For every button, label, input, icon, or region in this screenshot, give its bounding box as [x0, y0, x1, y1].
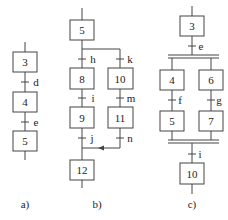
transition-label: m — [127, 92, 136, 104]
transition-label: h — [90, 53, 96, 65]
step-label: 3 — [22, 56, 28, 68]
step-label: 7 — [208, 115, 214, 127]
transition-label: n — [127, 132, 133, 144]
transition-label: i — [91, 92, 94, 104]
step-label: 3 — [189, 20, 195, 32]
transition-label: i — [198, 148, 201, 160]
step-label: 5 — [22, 135, 28, 147]
diagram-c — [160, 6, 223, 194]
step-label: 4 — [22, 96, 28, 108]
caption-b: b) — [92, 198, 102, 211]
caption-a: a) — [21, 198, 30, 211]
step-label: 5 — [169, 115, 175, 127]
step-label: 4 — [169, 74, 175, 86]
transition-label: e — [34, 116, 39, 128]
transition-label: j — [89, 132, 93, 144]
transition-label: g — [216, 94, 222, 106]
step-label: 10 — [115, 73, 127, 85]
transition-label: f — [178, 94, 182, 106]
step-label: 11 — [115, 112, 126, 124]
step-label: 5 — [79, 24, 85, 36]
sfc-diagrams: 3 4 5 d e a) 5 8 9 10 11 12 h i j k m n … — [0, 0, 228, 220]
step-label: 6 — [208, 74, 214, 86]
transition-label: d — [33, 76, 39, 88]
transition-label: k — [127, 53, 133, 65]
step-label: 9 — [79, 112, 85, 124]
step-label: 12 — [77, 164, 88, 176]
step-label: 8 — [79, 73, 85, 85]
step-label: 10 — [187, 168, 199, 180]
caption-c: c) — [188, 198, 197, 211]
transition-label: e — [199, 40, 204, 52]
arrow-icon — [98, 146, 104, 151]
